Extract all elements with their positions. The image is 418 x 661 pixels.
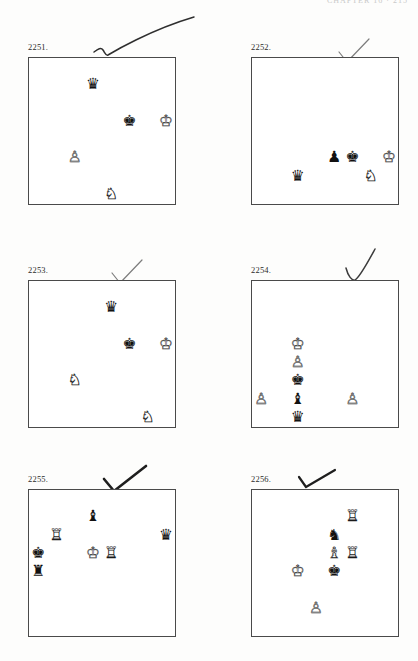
square-c3[interactable]: ♙ <box>66 149 84 167</box>
square-g8[interactable] <box>362 281 380 299</box>
square-g5[interactable] <box>139 336 157 354</box>
square-e2[interactable] <box>102 391 120 409</box>
square-g2[interactable] <box>362 391 380 409</box>
square-g4[interactable] <box>139 354 157 372</box>
square-b4[interactable] <box>47 354 65 372</box>
square-e8[interactable] <box>325 281 343 299</box>
square-c3[interactable]: ♚ <box>289 372 307 390</box>
square-g7[interactable] <box>362 76 380 94</box>
square-b6[interactable] <box>270 318 288 336</box>
square-d7[interactable] <box>307 508 325 526</box>
square-g5[interactable] <box>139 113 157 131</box>
square-e3[interactable] <box>325 581 343 599</box>
square-b2[interactable] <box>270 168 288 186</box>
square-a7[interactable] <box>29 76 47 94</box>
square-h4[interactable] <box>157 563 175 581</box>
square-e6[interactable] <box>102 95 120 113</box>
square-d7[interactable]: ♝ <box>84 508 102 526</box>
square-b1[interactable] <box>47 409 65 427</box>
square-f5[interactable] <box>120 545 138 563</box>
square-c3[interactable] <box>289 149 307 167</box>
square-b3[interactable] <box>270 581 288 599</box>
square-b7[interactable] <box>47 508 65 526</box>
square-d5[interactable] <box>307 336 325 354</box>
square-d4[interactable] <box>307 354 325 372</box>
square-e2[interactable] <box>325 168 343 186</box>
square-d8[interactable] <box>307 490 325 508</box>
square-b8[interactable] <box>270 281 288 299</box>
square-b8[interactable] <box>47 58 65 76</box>
square-e5[interactable] <box>325 336 343 354</box>
square-f1[interactable] <box>343 186 361 204</box>
square-d4[interactable] <box>84 354 102 372</box>
square-a5[interactable] <box>252 545 270 563</box>
square-h6[interactable] <box>380 318 398 336</box>
square-h2[interactable] <box>157 391 175 409</box>
square-g6[interactable] <box>139 318 157 336</box>
square-b2[interactable] <box>47 600 65 618</box>
square-a1[interactable] <box>252 409 270 427</box>
square-f8[interactable] <box>120 281 138 299</box>
square-c1[interactable]: ♛ <box>289 409 307 427</box>
square-a5[interactable] <box>252 113 270 131</box>
square-e3[interactable] <box>102 372 120 390</box>
square-f7[interactable] <box>343 76 361 94</box>
square-c8[interactable] <box>66 490 84 508</box>
square-e7[interactable] <box>325 76 343 94</box>
square-e4[interactable] <box>325 354 343 372</box>
square-h6[interactable] <box>380 95 398 113</box>
square-f4[interactable] <box>343 563 361 581</box>
square-b1[interactable] <box>47 618 65 636</box>
square-c1[interactable] <box>66 618 84 636</box>
square-d3[interactable] <box>307 149 325 167</box>
square-a8[interactable] <box>29 490 47 508</box>
square-h3[interactable] <box>157 581 175 599</box>
square-d3[interactable] <box>84 149 102 167</box>
square-f5[interactable]: ♖ <box>343 545 361 563</box>
square-f5[interactable] <box>343 113 361 131</box>
square-b3[interactable] <box>270 149 288 167</box>
square-a8[interactable] <box>252 281 270 299</box>
square-b8[interactable] <box>47 490 65 508</box>
square-c5[interactable] <box>289 545 307 563</box>
square-b6[interactable]: ♖ <box>47 527 65 545</box>
square-g4[interactable] <box>362 563 380 581</box>
square-g1[interactable] <box>362 186 380 204</box>
square-e1[interactable]: ♘ <box>102 186 120 204</box>
square-d2[interactable] <box>84 600 102 618</box>
square-e3[interactable] <box>102 149 120 167</box>
square-c6[interactable] <box>66 318 84 336</box>
square-c7[interactable] <box>66 508 84 526</box>
square-d6[interactable] <box>307 527 325 545</box>
square-f3[interactable] <box>120 581 138 599</box>
square-e7[interactable] <box>325 508 343 526</box>
square-d6[interactable] <box>307 318 325 336</box>
square-d8[interactable] <box>84 490 102 508</box>
square-c3[interactable]: ♘ <box>66 372 84 390</box>
square-f4[interactable] <box>120 354 138 372</box>
square-c3[interactable] <box>66 581 84 599</box>
square-h3[interactable] <box>157 149 175 167</box>
square-c6[interactable] <box>289 527 307 545</box>
square-d6[interactable] <box>84 527 102 545</box>
square-f8[interactable] <box>120 490 138 508</box>
square-f1[interactable] <box>343 409 361 427</box>
square-c5[interactable]: ♔ <box>289 336 307 354</box>
square-f7[interactable] <box>120 299 138 317</box>
chessboard[interactable]: ♝♖♛♚♔♖♜ <box>28 489 176 637</box>
square-g6[interactable] <box>362 527 380 545</box>
square-e3[interactable]: ♟ <box>325 149 343 167</box>
square-f3[interactable] <box>120 149 138 167</box>
square-f2[interactable]: ♙ <box>343 391 361 409</box>
square-g4[interactable] <box>362 131 380 149</box>
square-b2[interactable] <box>47 391 65 409</box>
square-h3[interactable] <box>380 581 398 599</box>
square-f6[interactable] <box>343 527 361 545</box>
square-g1[interactable] <box>362 618 380 636</box>
square-c8[interactable] <box>289 58 307 76</box>
square-g7[interactable] <box>362 299 380 317</box>
chessboard[interactable]: ♛♚♔♘♘ <box>28 280 176 428</box>
square-d8[interactable] <box>307 281 325 299</box>
square-d6[interactable] <box>84 318 102 336</box>
square-h6[interactable] <box>157 95 175 113</box>
